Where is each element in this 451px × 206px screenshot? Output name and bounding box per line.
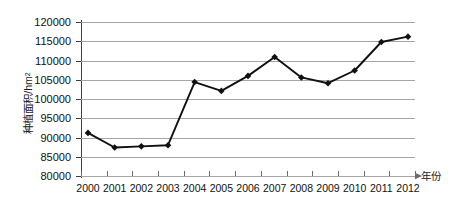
x-tick-mark [364, 171, 365, 176]
x-tick-mark [158, 171, 159, 176]
x-tick-mark [415, 171, 416, 176]
line-chart: 种植面积/hm2 1200001150001100001050001000009… [0, 0, 451, 206]
y-tick-mark [76, 80, 81, 81]
x-tick-mark [312, 171, 313, 176]
x-tick-mark [81, 171, 82, 176]
x-axis-title: 年份 [421, 168, 441, 183]
x-tick-label: 2012 [388, 181, 428, 195]
y-tick-mark [76, 41, 81, 42]
x-axis-tick-labels: 2000200120022003200420052006200720082009… [0, 181, 451, 199]
data-point-marker [325, 80, 332, 87]
data-series-layer [0, 0, 451, 206]
data-point-marker [191, 79, 198, 86]
y-tick-mark [76, 99, 81, 100]
y-tick-mark [76, 22, 81, 23]
x-tick-mark [261, 171, 262, 176]
x-tick-mark [107, 171, 108, 176]
x-tick-mark [235, 171, 236, 176]
data-point-marker [138, 143, 145, 150]
x-tick-mark [287, 171, 288, 176]
x-tick-mark [338, 171, 339, 176]
data-point-marker [405, 33, 412, 40]
series-line [88, 37, 408, 148]
x-tick-mark [132, 171, 133, 176]
x-tick-mark [389, 171, 390, 176]
y-tick-mark [76, 118, 81, 119]
x-tick-mark [209, 171, 210, 176]
y-tick-mark [76, 61, 81, 62]
data-point-marker [165, 142, 172, 149]
y-tick-mark [76, 157, 81, 158]
y-tick-mark [76, 138, 81, 139]
y-tick-mark [76, 176, 81, 177]
x-tick-mark [184, 171, 185, 176]
